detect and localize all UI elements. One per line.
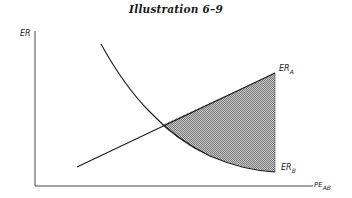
y-axis-label: ER bbox=[20, 29, 31, 38]
shaded-region bbox=[162, 73, 275, 172]
chart-plot: ER ERA ERB PEAB bbox=[0, 0, 352, 198]
label-er-b: ERB bbox=[281, 163, 296, 174]
x-axis-label: PEAB bbox=[314, 181, 331, 191]
label-er-a: ERA bbox=[279, 64, 294, 75]
